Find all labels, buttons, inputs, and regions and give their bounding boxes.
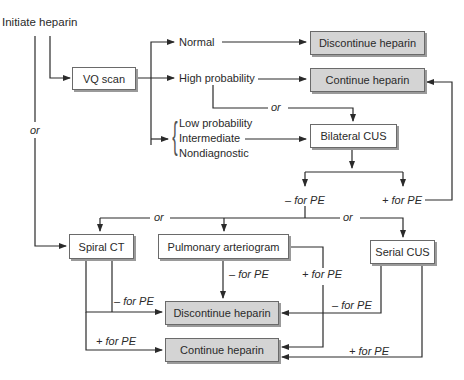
discontinue-heparin-bottom-label: Discontinue heparin (173, 307, 270, 319)
edge-label-neg-pe-pulmonary: – for PE (229, 268, 269, 281)
edge-label-pos-pe-pulmonary: + for PE (302, 268, 342, 281)
result-nondiagnostic: Nondiagnostic (179, 147, 249, 160)
serial-cus-box[interactable]: Serial CUS (370, 240, 435, 264)
edge-label-neg-pe-spiral: – for PE (114, 295, 154, 308)
edge-label-or-left: or (30, 124, 40, 137)
discontinue-heparin-top-label: Discontinue heparin (319, 37, 416, 49)
result-intermediate: Intermediate (179, 132, 240, 145)
result-low-probability: Low probability (179, 117, 252, 130)
start-label: Initiate heparin (2, 16, 77, 29)
continue-heparin-top[interactable]: Continue heparin (310, 68, 425, 92)
discontinue-heparin-top[interactable]: Discontinue heparin (310, 31, 425, 55)
edge-label-neg-pe-serial: – for PE (332, 299, 372, 312)
edge-label-pos-pe-serial: + for PE (349, 345, 389, 358)
edge-label-or-left-tests: or (151, 211, 167, 224)
continue-heparin-bottom[interactable]: Continue heparin (165, 338, 279, 362)
bilateral-cus-box[interactable]: Bilateral CUS (310, 124, 397, 148)
edge-label-pos-pe-bilateral: + for PE (382, 194, 422, 207)
result-normal: Normal (179, 36, 214, 49)
vq-scan-box[interactable]: VQ scan (72, 67, 136, 90)
spiral-ct-box[interactable]: Spiral CT (69, 234, 134, 259)
edge-label-or-right-tests: or (340, 211, 356, 224)
spiral-ct-label: Spiral CT (79, 241, 125, 253)
serial-cus-label: Serial CUS (375, 246, 429, 258)
discontinue-heparin-bottom[interactable]: Discontinue heparin (165, 301, 279, 325)
edge-label-or-high: or (268, 101, 284, 114)
continue-heparin-top-label: Continue heparin (326, 74, 410, 86)
pulmonary-arteriogram-label: Pulmonary arteriogram (168, 241, 280, 253)
result-high-probability: High probability (179, 72, 255, 85)
bilateral-cus-label: Bilateral CUS (320, 130, 386, 142)
edge-label-pos-pe-spiral: + for PE (96, 335, 136, 348)
continue-heparin-bottom-label: Continue heparin (180, 344, 264, 356)
vq-scan-label: VQ scan (83, 73, 125, 85)
pulmonary-arteriogram-box[interactable]: Pulmonary arteriogram (158, 234, 289, 259)
brace-icon: { (172, 114, 177, 158)
edge-label-neg-pe-bilateral: – for PE (285, 194, 325, 207)
